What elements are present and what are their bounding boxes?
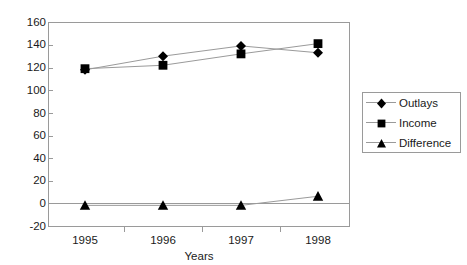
y-axis: 160 140 120 100 80 60 40 20 0 -20 [0,0,46,265]
y-tick-mark [48,22,53,23]
x-tick-label: 1995 [55,234,115,246]
x-tick-mark [280,227,281,232]
y-tick-mark [48,136,53,137]
x-tick-mark [124,227,125,232]
y-tick-mark [48,181,53,182]
x-tick-label: 1996 [133,234,193,246]
y-tick-mark [48,68,53,69]
y-tick-label: 60 [2,130,46,142]
y-tick-mark [48,226,53,227]
zero-baseline [48,203,350,204]
y-tick-mark [48,45,53,46]
legend-entry-difference: Difference [363,133,460,153]
y-tick-label: 140 [2,39,46,51]
y-tick-label: 120 [2,62,46,74]
y-tick-mark [48,113,53,114]
triangle-marker-icon [366,136,396,150]
y-tick-label: 100 [2,85,46,97]
x-tick-label: 1998 [288,234,348,246]
y-tick-label: -20 [2,221,46,233]
square-marker-icon [366,116,396,130]
plot-area [48,22,350,227]
legend-label: Difference [396,137,451,149]
x-tick-mark [202,227,203,232]
legend: Outlays Income Difference [362,92,461,153]
y-tick-label: 160 [2,17,46,29]
y-tick-mark [48,158,53,159]
legend-label: Income [396,117,437,129]
y-tick-label: 40 [2,153,46,165]
legend-entry-income: Income [363,113,460,133]
x-tick-label: 1997 [211,234,271,246]
diamond-marker-icon [366,96,396,110]
y-tick-mark [48,90,53,91]
legend-entry-outlays: Outlays [363,93,460,113]
y-tick-label: 20 [2,175,46,187]
y-tick-label: 0 [2,198,46,210]
line-chart: 160 140 120 100 80 60 40 20 0 -20 1995 1… [0,0,467,265]
x-axis-title: Years [0,250,398,262]
y-tick-label: 80 [2,108,46,120]
legend-label: Outlays [396,97,438,109]
y-tick-mark [48,203,53,204]
